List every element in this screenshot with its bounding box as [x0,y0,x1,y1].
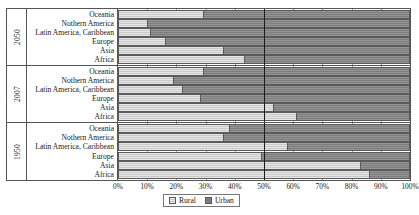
bar-segment-rural [118,94,200,103]
category-label: Africa [27,55,117,64]
legend-label: Rural [179,196,196,205]
bar-segment-urban [229,124,410,133]
x-axis: 0%10%20%30%40%50%60%70%80%90%100% [6,181,411,195]
category-label: Latin America, Caribbean [27,28,117,37]
bar-segment-rural [118,112,296,121]
category-label: Oceania [27,10,117,19]
category-label: Asia [27,103,117,112]
bar-segment-rural [118,67,203,76]
group-year-label: 2007 [12,86,21,102]
x-axis-tick-label: 10% [140,182,154,191]
plot-area: 2050OceaniaNothern AmericaLatin America,… [6,8,411,181]
category-label: Latin America, Caribbean [27,142,117,151]
group-year-label-cell: 2050 [7,9,27,65]
bar-segment-urban [150,28,410,37]
bar-segment-rural [118,152,261,161]
category-label: Asia [27,46,117,55]
bar-segment-urban [200,94,410,103]
legend-item-rural[interactable]: Rural [169,196,196,205]
bar-segment-rural [118,161,360,170]
category-label-column: OceaniaNothern AmericaLatin America, Car… [27,66,118,122]
bars-column [118,66,410,122]
category-label: Africa [27,112,117,121]
legend-label: Urban [215,196,234,205]
chart-legend: RuralUrban [163,194,240,207]
category-label: Oceania [27,124,117,133]
x-axis-tick-label: 0% [113,182,123,191]
group-panel: 2050OceaniaNothern AmericaLatin America,… [7,9,410,66]
group-year-label-cell: 2007 [7,66,27,122]
bar-segment-urban [173,76,410,85]
x-axis-tick-label: 20% [170,182,184,191]
bar-segment-urban [273,103,410,112]
bar-segment-urban [223,133,410,142]
category-label: Asia [27,161,117,170]
x-axis-tick-label: 40% [228,182,242,191]
legend-item-urban[interactable]: Urban [205,196,234,205]
bar-segment-urban [287,142,410,151]
bar-segment-rural [118,124,229,133]
category-label-column: OceaniaNothern AmericaLatin America, Car… [27,9,118,65]
x-axis-tick-label: 60% [286,182,300,191]
x-axis-tick-label: 30% [199,182,213,191]
bar-segment-rural [118,142,287,151]
category-label: Europe [27,94,117,103]
group-year-label-cell: 1950 [7,123,27,180]
group-panel: 1950OceaniaNothern AmericaLatin America,… [7,123,410,180]
bar-segment-urban [369,170,410,179]
category-label: Europe [27,37,117,46]
category-label: Nothern America [27,76,117,85]
x-axis-tick-label: 90% [374,182,388,191]
category-label: Africa [27,170,117,179]
category-label: Europe [27,152,117,161]
x-axis-tick-label: 100% [401,182,418,191]
bar-segment-urban [165,37,410,46]
bar-segment-rural [118,19,147,28]
group-panel: 2007OceaniaNothern AmericaLatin America,… [7,66,410,123]
category-label: Oceania [27,67,117,76]
gridline-mid [264,123,265,180]
legend-swatch-rural-icon [169,197,176,204]
bar-segment-rural [118,28,150,37]
bars-column [118,123,410,180]
gridline-mid [264,9,265,65]
bar-segment-rural [118,76,173,85]
bar-segment-urban [244,55,410,64]
legend-swatch-urban-icon [205,197,212,204]
category-label: Nothern America [27,133,117,142]
bar-segment-rural [118,170,369,179]
bar-segment-rural [118,133,223,142]
bar-segment-urban [203,67,410,76]
category-label-column: OceaniaNothern AmericaLatin America, Car… [27,123,118,180]
category-label: Latin America, Caribbean [27,85,117,94]
category-label: Nothern America [27,19,117,28]
bar-segment-rural [118,10,203,19]
bar-segment-rural [118,103,273,112]
gridline-mid [264,66,265,122]
bar-segment-urban [203,10,410,19]
x-axis-tick-label: 70% [316,182,330,191]
bar-segment-rural [118,37,165,46]
group-year-label: 2050 [12,29,21,45]
bars-column [118,9,410,65]
bar-segment-urban [360,161,410,170]
x-axis-tick-label: 50% [257,182,271,191]
group-year-label: 1950 [12,144,21,160]
bar-segment-urban [223,46,410,55]
bar-segment-rural [118,46,223,55]
bar-segment-urban [182,85,410,94]
x-axis-tick-label: 80% [345,182,359,191]
bar-segment-urban [147,19,410,28]
bar-segment-rural [118,85,182,94]
bar-segment-urban [261,152,410,161]
bar-segment-urban [296,112,410,121]
bar-segment-rural [118,55,244,64]
